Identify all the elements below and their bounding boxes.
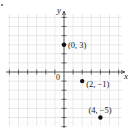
point-label: (2, −1) [86,79,109,89]
corner-mark [1,4,3,6]
point-marker [98,115,102,119]
data-point: (2, −1) [80,79,110,89]
point-label: (0, 3) [68,40,87,50]
coordinate-plane: x y 0 (0, 3)(2, −1)(4, −5) [0,0,130,131]
origin-label: 0 [56,73,60,82]
data-points: (0, 3)(2, −1)(4, −5) [62,40,112,120]
point-marker [80,79,84,83]
x-axis-label: x [123,71,128,81]
data-point: (0, 3) [62,40,87,50]
point-marker [62,43,66,47]
y-axis-label: y [56,5,61,15]
point-label: (4, −5) [88,105,111,115]
